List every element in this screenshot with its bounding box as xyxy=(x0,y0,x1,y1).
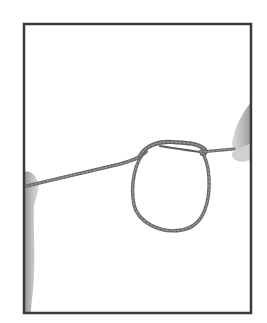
background xyxy=(0,0,267,323)
knot-photo xyxy=(0,0,267,323)
knot-illustration xyxy=(0,0,267,323)
